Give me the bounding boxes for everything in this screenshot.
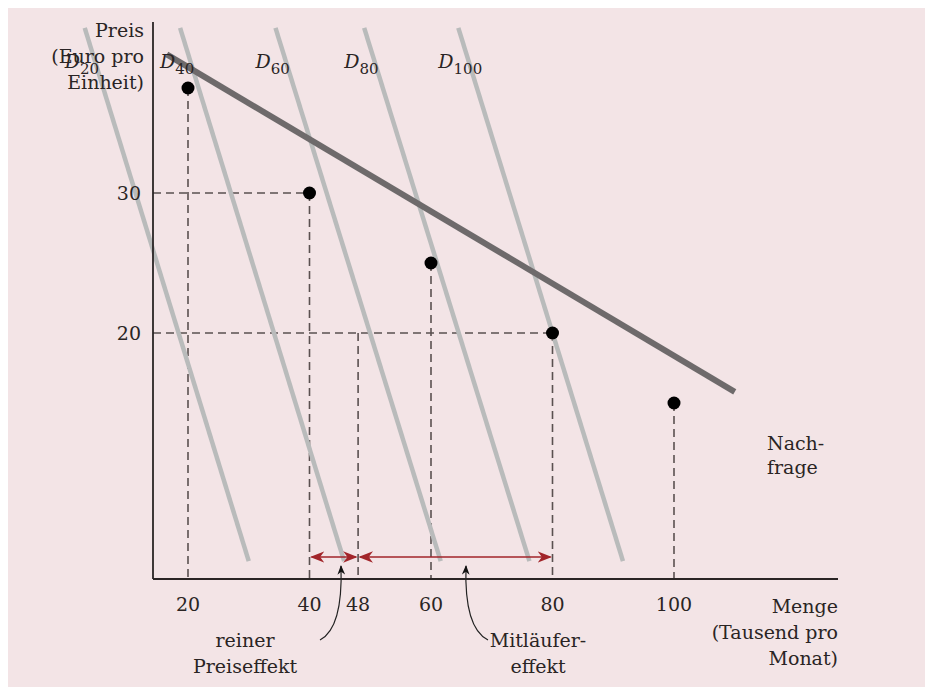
- demand-curve-label: Nach-: [767, 432, 824, 454]
- demand-curve-label: frage: [767, 456, 818, 478]
- equilibrium-point: [546, 327, 559, 340]
- effect-label: reiner: [216, 629, 276, 651]
- effect-label: Preiseffekt: [193, 655, 297, 677]
- demand-curve-group: [167, 54, 735, 391]
- effect-label: effekt: [510, 655, 566, 677]
- demand-curve: [167, 54, 735, 391]
- x-tick-label: 48: [346, 593, 370, 615]
- equilibrium-point: [182, 82, 195, 95]
- effect-pointer: [466, 566, 488, 640]
- equilibrium-point: [303, 187, 316, 200]
- x-tick-label: 40: [297, 593, 321, 615]
- equilibrium-point: [425, 257, 438, 270]
- y-tick-label: 20: [117, 322, 141, 344]
- curve-label-d100: D100: [437, 50, 482, 78]
- individual-demand-curves: [85, 28, 623, 561]
- x-axis-label: Menge: [772, 595, 838, 617]
- effect-label: Mitläufer-: [490, 629, 587, 651]
- x-tick-label: 60: [419, 593, 443, 615]
- x-tick-label: 20: [176, 593, 200, 615]
- y-tick-label: 30: [117, 182, 141, 204]
- individual-demand-curve-d80: [364, 28, 529, 561]
- x-axis-label: Monat): [768, 647, 838, 669]
- individual-demand-curve-d100: [458, 28, 623, 561]
- x-tick-label: 80: [540, 593, 564, 615]
- y-axis-label: Preis: [95, 19, 144, 41]
- individual-demand-curve-d20: [85, 28, 249, 561]
- chart: D20D40D60D80D100Nach-fragePreis(Euro pro…: [0, 0, 931, 699]
- y-axis-label: Einheit): [67, 71, 144, 93]
- y-axis-label: (Euro pro: [51, 45, 144, 67]
- x-tick-label: 100: [656, 593, 692, 615]
- x-axis-label: (Tausend pro: [712, 621, 838, 643]
- effect-pointer: [320, 566, 341, 640]
- equilibrium-point: [668, 397, 681, 410]
